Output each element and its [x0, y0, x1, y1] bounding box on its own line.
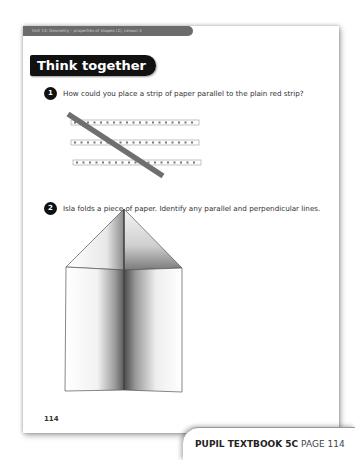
- textbook-page: Unit 14: Geometry – properties of shapes…: [23, 26, 339, 433]
- question-1-figure: [23, 26, 339, 433]
- question-2-text: Isla folds a piece of paper. Identify an…: [63, 204, 320, 213]
- book-label: PUPIL TEXTBOOK 5C: [195, 439, 298, 449]
- folded-paper-figure: [65, 209, 182, 392]
- question-2-badge: 2: [44, 202, 57, 215]
- page-label: PAGE 114: [301, 439, 345, 449]
- footer-tab: PUPIL TEXTBOOK 5C PAGE 114: [183, 427, 355, 460]
- footer-tab-text: PUPIL TEXTBOOK 5C PAGE 114: [195, 439, 345, 449]
- page-number: 114: [44, 415, 59, 423]
